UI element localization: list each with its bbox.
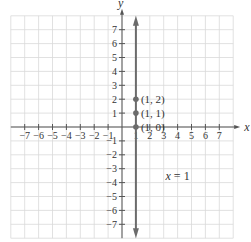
x-tick-label: 6 xyxy=(203,130,208,141)
x-axis-arrow-icon xyxy=(234,125,240,129)
y-tick-label: 7 xyxy=(112,24,117,35)
y-tick-label: −2 xyxy=(106,149,117,160)
y-tick-label: 1 xyxy=(112,108,117,119)
y-tick-label: 4 xyxy=(112,66,117,77)
point-label: (1, 0) xyxy=(141,121,165,134)
y-tick-label: 3 xyxy=(112,80,117,91)
y-tick-label: −5 xyxy=(106,191,117,202)
data-point xyxy=(133,124,139,130)
x-tick-label: 5 xyxy=(189,130,194,141)
y-tick-label: −4 xyxy=(106,177,117,188)
y-tick-label: 2 xyxy=(112,94,117,105)
y-tick-label: −6 xyxy=(106,205,117,216)
y-tick-label: −3 xyxy=(106,163,117,174)
line-arrow-down-icon xyxy=(133,228,139,238)
x-tick-label: −7 xyxy=(19,130,30,141)
point-label: (1, 1) xyxy=(141,107,165,120)
line-arrow-up-icon xyxy=(133,16,139,26)
coordinate-plane: xy−7−6−5−4−3−2−11234567−7−6−5−4−3−2−1123… xyxy=(0,0,251,242)
y-tick-label: 6 xyxy=(112,38,117,49)
x-tick-label: 4 xyxy=(175,130,180,141)
x-tick-label: −6 xyxy=(33,130,44,141)
x-tick-label: −3 xyxy=(75,130,86,141)
data-point xyxy=(133,96,139,102)
x-tick-label: −5 xyxy=(47,130,58,141)
y-tick-label: −1 xyxy=(106,135,117,146)
x-tick-label: 7 xyxy=(217,130,222,141)
y-tick-label: −7 xyxy=(106,219,117,230)
equation-label: x = 1 xyxy=(165,169,190,183)
point-label: (1, 2) xyxy=(141,93,165,106)
data-point xyxy=(133,110,139,116)
x-tick-label: −4 xyxy=(61,130,72,141)
x-axis-label: x xyxy=(243,120,250,134)
y-tick-label: 5 xyxy=(112,52,117,63)
x-tick-label: −2 xyxy=(89,130,100,141)
y-axis-label: y xyxy=(117,0,124,10)
